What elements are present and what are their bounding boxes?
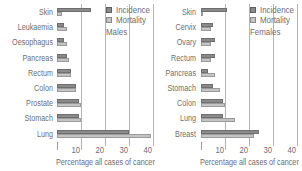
x-tick-label: 30 [255,145,272,155]
sex-label: Females [250,27,293,37]
females-chart: SkinCervixOvaryRectumPancreasStomachColo… [0,0,302,171]
category-label: Stomach [145,83,196,93]
mortality-bar-colon [201,103,225,107]
legend-label: Mortality [260,15,290,25]
legend: IncidenceMortalityFemales [250,5,299,37]
incidence-swatch-icon [250,7,256,13]
mortality-bar-pancreas [201,73,215,77]
category-label: Pancreas [145,68,196,78]
mortality-bar-skin [201,12,203,16]
mortality-bar-rectum [201,58,211,62]
category-label: Breast [145,129,196,139]
legend-item-mortality: Mortality [250,15,299,25]
x-axis-zero-tick [201,142,202,150]
x-tick-label: 40 [279,145,296,155]
legend-label: Incidence [260,5,294,15]
x-axis-label: Percentage all cases of cancer [200,157,299,167]
incidence-bar-skin [201,8,227,12]
mortality-bar-breast [201,134,254,138]
mortality-bar-ovary [201,42,211,46]
category-label: Skin [145,7,196,17]
mortality-bar-stomach [201,88,220,92]
category-label: Rectum [145,53,196,63]
x-tick-label: 20 [231,145,248,155]
category-label: Cervix [145,22,196,32]
category-label: Lung [145,113,196,123]
category-label: Ovary [145,37,196,47]
x-tick-label: 10 [207,145,224,155]
gridline-10 [225,4,226,150]
legend-item-incidence: Incidence [250,5,299,15]
mortality-bar-lung [201,118,235,122]
category-label: Colon [145,98,196,108]
mortality-bar-cervix [201,27,211,31]
mortality-swatch-icon [250,17,256,23]
